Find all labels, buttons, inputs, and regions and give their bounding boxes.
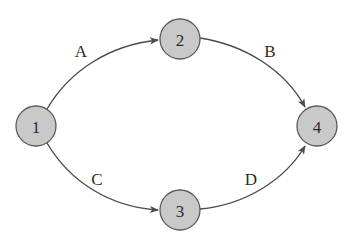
node-1: 1	[16, 106, 56, 146]
node-2: 2	[160, 19, 200, 59]
node-4: 4	[297, 106, 337, 146]
node-4-label: 4	[313, 118, 322, 137]
edge-label-b: B	[264, 42, 275, 61]
edge-a-arrow	[47, 40, 158, 109]
node-1-label: 1	[32, 118, 41, 137]
node-2-label: 2	[176, 31, 185, 50]
edge-label-d: D	[245, 170, 257, 189]
directed-graph-diagram: A B C D 1 2 3 4	[0, 0, 346, 243]
edge-label-c: C	[91, 170, 102, 189]
node-3: 3	[160, 190, 200, 230]
edge-label-a: A	[75, 42, 88, 61]
edge-b-arrow	[200, 38, 305, 107]
node-3-label: 3	[176, 202, 185, 221]
